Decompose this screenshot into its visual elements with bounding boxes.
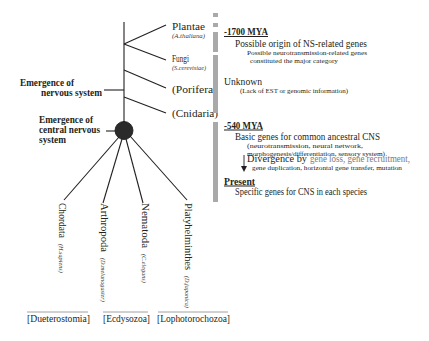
species-nematoda: (C.elegans) [140, 254, 148, 283]
timeline-1700mya: -1700 MYA Possible origin of NS-related … [224, 26, 367, 65]
label-emergence-ns-line1: Emergence of [20, 78, 75, 88]
branch-arthropoda [103, 139, 122, 203]
label-cnidaria: (Cnidaria) [172, 108, 218, 120]
phylogenetic-tree [64, 22, 187, 203]
timeline-bar [213, 13, 218, 202]
branch-fungi [124, 44, 166, 60]
outgroup-labels: Plantae (A.thaliana) Fungi (S.cerevisiae… [172, 21, 218, 120]
species-chordata: (H.sapiens) [57, 244, 65, 273]
text-divergence-by: Divergence by [247, 153, 307, 164]
cns-evolution-diagram: Plantae (A.thaliana) Fungi (S.cerevisiae… [0, 0, 429, 341]
timeline-segment-dash-2 [213, 23, 218, 27]
label-emergence-cns-line1: Emergence of [39, 115, 94, 125]
label-emergence-cns-line3: system [39, 135, 66, 145]
species-fungi: (S.cerevisiae) [172, 64, 206, 72]
note-major-category: constituted the major category [250, 57, 339, 65]
branch-nematoda [126, 139, 143, 203]
timeline-segment-1700mya [213, 32, 218, 52]
label-fungi: Fungi [172, 53, 189, 64]
species-platyhelminthes: (D.japonica) [183, 276, 191, 308]
label-ecdysozoa: [Ecdysozoa] [103, 314, 150, 324]
superclade-labels: [Dueterostomia] [Ecdysozoa] [Lophotoroch… [27, 312, 230, 324]
text-unknown: Unknown [224, 76, 262, 87]
text-specific-genes: Specific genes for CNS in each species [235, 186, 367, 197]
timeline-unknown: Unknown (Lack of EST or genomic informat… [224, 76, 349, 96]
label-porifera: (Porifera) [172, 84, 217, 96]
note-lack-of-est: (Lack of EST or genomic information) [240, 87, 349, 95]
diagram-svg: Plantae (A.thaliana) Fungi (S.cerevisiae… [0, 0, 429, 341]
label-chordata: Chordata (H.sapiens) [56, 203, 73, 273]
species-arthropoda: (D.melanogaster) [99, 258, 107, 302]
label-arthropoda: Arthropoda (D.melanogaster) [98, 203, 115, 302]
arrow-down-icon [241, 166, 247, 172]
clade-name-arthropoda: Arthropoda [99, 203, 110, 253]
label-plantae: Plantae [172, 21, 206, 32]
species-plantae: (A.thaliana) [172, 32, 205, 40]
cns-node-dot [115, 122, 133, 140]
clade-name-platyhelminthes: Platyhelminthes [183, 203, 194, 270]
event-labels: Emergence of nervous system Emergence of… [20, 78, 102, 145]
heading-1700-mya: -1700 MYA [224, 26, 269, 37]
bilaterian-labels: Chordata (H.sapiens) Arthropoda (D.melan… [56, 203, 200, 308]
text-basic-genes: Basic genes for common ancestral CNS [235, 131, 380, 142]
label-dueterostomia: [Dueterostomia] [27, 314, 90, 324]
text-gene-loss-recruitment: gene loss, gene recruitment, [310, 153, 410, 164]
timeline-segment-dash-1 [213, 13, 218, 17]
timeline-present: Present Specific genes for CNS in each s… [224, 176, 367, 197]
clade-name-nematoda: Nematoda [140, 203, 151, 249]
label-lophotrochozoa: [Lophotorochozoa] [157, 314, 230, 324]
note-divergence-mechanisms: gene duplication, horizontal gene transf… [252, 164, 403, 172]
branch-plantae [124, 25, 166, 44]
timeline-segment-540mya [213, 122, 218, 202]
branch-chordata [64, 137, 119, 200]
timeline-540mya: -540 MYA Basic genes for common ancestra… [224, 120, 410, 173]
label-emergence-cns-line2: central nervous [39, 125, 100, 135]
label-platyhelminthes: Platyhelminthes (D.japonica) [182, 203, 199, 308]
timeline-segment-unknown [213, 55, 218, 113]
label-nematoda: Nematoda (C.elegans) [139, 203, 156, 283]
heading-540-mya: -540 MYA [224, 120, 264, 131]
branch-platyhelminthes [130, 136, 187, 200]
branch-porifera [124, 70, 166, 88]
label-emergence-ns-line2: nervous system [41, 88, 102, 98]
text-possible-origin: Possible origin of NS-related genes [235, 38, 367, 49]
clade-name-chordata: Chordata [57, 203, 68, 239]
note-neural-functions-line1: (neurotransmission, neural network, [247, 142, 363, 150]
branch-cnidaria [124, 97, 166, 113]
